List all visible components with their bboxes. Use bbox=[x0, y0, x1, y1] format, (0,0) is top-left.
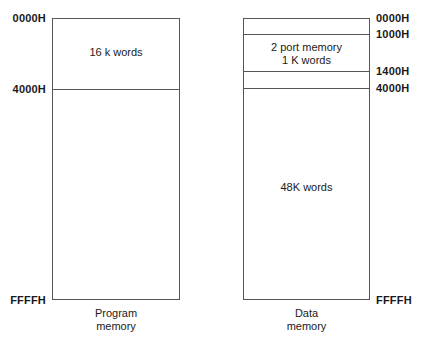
data-memory-address-1400h: 1400H bbox=[376, 66, 425, 77]
data-memory-region-2port-line1: 2 port memory bbox=[243, 41, 370, 54]
data-memory-address-0000h: 0000H bbox=[376, 13, 425, 24]
data-memory-address-1000h: 1000H bbox=[376, 29, 425, 40]
program-memory-region-16k-label: 16 k words bbox=[52, 46, 180, 59]
data-memory-address-4000h: 4000H bbox=[376, 83, 425, 94]
data-memory-region-48k-label: 48K words bbox=[243, 181, 370, 194]
program-memory-address-0000h: 0000H bbox=[0, 13, 46, 24]
program-memory-divider-4000h bbox=[52, 89, 180, 90]
program-memory-box bbox=[52, 18, 180, 300]
data-memory-divider-1400h bbox=[243, 71, 370, 72]
data-memory-address-ffffh: FFFFH bbox=[376, 295, 425, 306]
data-memory-divider-1000h bbox=[243, 34, 370, 35]
data-memory-caption-line1: Data bbox=[243, 307, 370, 320]
program-memory-caption-line1: Program bbox=[52, 307, 180, 320]
data-memory-caption-line2: memory bbox=[243, 320, 370, 333]
data-memory-caption: Data memory bbox=[243, 307, 370, 333]
program-memory-caption-line2: memory bbox=[52, 320, 180, 333]
program-memory-address-ffffh: FFFFH bbox=[0, 295, 46, 306]
data-memory-region-2port-line2: 1 K words bbox=[243, 54, 370, 67]
program-memory-address-4000h: 4000H bbox=[0, 84, 46, 95]
data-memory-region-2port-label: 2 port memory 1 K words bbox=[243, 41, 370, 67]
memory-map-diagram: 0000H 4000H FFFFH 16 k words Program mem… bbox=[0, 0, 425, 344]
data-memory-divider-4000h bbox=[243, 88, 370, 89]
program-memory-caption: Program memory bbox=[52, 307, 180, 333]
